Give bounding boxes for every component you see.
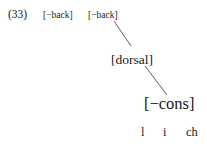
example-number: (33) bbox=[8, 9, 27, 21]
segment-ch: ch bbox=[186, 126, 198, 139]
feature-cons: [−cons] bbox=[144, 96, 195, 113]
association-lines bbox=[0, 0, 207, 147]
association-line-dorsal-cons bbox=[145, 66, 167, 95]
segment-l: l bbox=[141, 126, 144, 139]
feature-dorsal: [dorsal] bbox=[111, 53, 153, 67]
feature-back-2: [−back] bbox=[88, 11, 118, 21]
association-line-back-dorsal bbox=[114, 21, 131, 46]
feature-back-1: [−back] bbox=[43, 11, 73, 21]
segment-i: i bbox=[163, 126, 166, 139]
